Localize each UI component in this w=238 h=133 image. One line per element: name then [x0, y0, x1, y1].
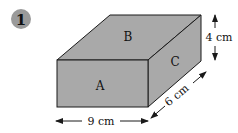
face-label-b: B — [124, 30, 133, 44]
length-dimension: 9 cm — [56, 115, 148, 128]
face-label-a: A — [95, 79, 105, 93]
face-label-c: C — [170, 55, 179, 69]
problem-number: 1 — [16, 11, 26, 29]
length-label: 9 cm — [87, 115, 115, 128]
height-dimension: 4 cm — [205, 15, 233, 60]
problem-number-badge: 1 — [11, 9, 31, 29]
height-label: 4 cm — [205, 31, 233, 44]
diagram: 1 A B C 4 cm 9 cm — [0, 0, 238, 133]
